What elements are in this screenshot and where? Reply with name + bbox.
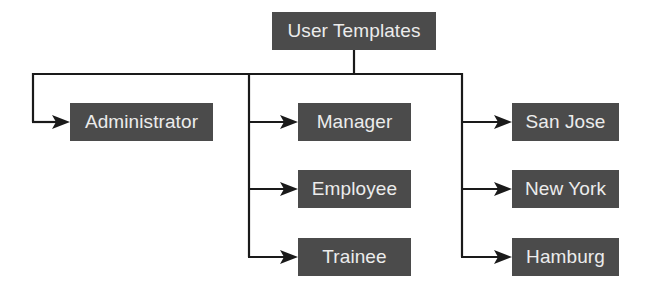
node-new-york: New York [512, 170, 619, 208]
node-trainee: Trainee [298, 238, 411, 276]
node-manager: Manager [298, 103, 411, 141]
node-hamburg: Hamburg [512, 238, 619, 276]
node-san-jose: San Jose [512, 103, 619, 141]
node-employee: Employee [298, 170, 411, 208]
node-user-templates: User Templates [272, 12, 436, 50]
node-administrator: Administrator [70, 103, 213, 141]
user-templates-diagram: User Templates Administrator Manager Emp… [0, 0, 650, 289]
